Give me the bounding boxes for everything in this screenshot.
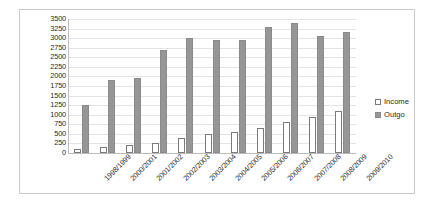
bar-income[interactable] bbox=[152, 143, 159, 153]
bar-group bbox=[152, 19, 167, 153]
chart-frame: 3500325030002750250022502000175015001250… bbox=[19, 9, 415, 194]
bar-group bbox=[100, 19, 115, 153]
bar-group bbox=[335, 19, 350, 153]
bar-income[interactable] bbox=[335, 111, 342, 153]
y-axis-tick-label: 2500 bbox=[50, 53, 66, 60]
y-axis-tick-label: 750 bbox=[54, 120, 66, 127]
legend-item-label: Income bbox=[384, 98, 409, 106]
y-axis: 3500325030002750250022502000175015001250… bbox=[39, 19, 68, 153]
y-axis-tick-label: 1750 bbox=[50, 82, 66, 89]
y-axis-tick-label: 1250 bbox=[50, 101, 66, 108]
y-axis-tick-label: 3000 bbox=[50, 34, 66, 41]
bar-outgo[interactable] bbox=[108, 80, 115, 153]
y-axis-tick-label: 2000 bbox=[50, 72, 66, 79]
x-axis-tick-label: 2008/2009 bbox=[339, 153, 369, 183]
bar-outgo[interactable] bbox=[134, 78, 141, 153]
bar-outgo[interactable] bbox=[239, 40, 246, 153]
bar-outgo[interactable] bbox=[82, 105, 89, 153]
x-axis-tick-label: 2005/2006 bbox=[260, 153, 290, 183]
x-axis-tick-label: 2001/2002 bbox=[155, 153, 185, 183]
bar-income[interactable] bbox=[178, 138, 185, 153]
x-axis: 1998/19992000/20012001/20022002/20032003… bbox=[68, 153, 356, 201]
bar-outgo[interactable] bbox=[265, 27, 272, 153]
bars-layer bbox=[68, 19, 356, 153]
y-axis-tick-label: 1500 bbox=[50, 92, 66, 99]
plot-area bbox=[68, 19, 356, 153]
bar-income[interactable] bbox=[309, 117, 316, 153]
y-axis-tick-label: 2250 bbox=[50, 63, 66, 70]
bar-outgo[interactable] bbox=[317, 36, 324, 153]
bar-outgo[interactable] bbox=[160, 50, 167, 153]
chart-legend: IncomeOutgo bbox=[375, 98, 433, 124]
bar-income[interactable] bbox=[126, 145, 133, 153]
y-axis-tick-label: 0 bbox=[62, 149, 66, 156]
y-axis-tick-label: 3250 bbox=[50, 25, 66, 32]
bar-income[interactable] bbox=[257, 128, 264, 153]
y-axis-tick-label: 500 bbox=[54, 130, 66, 137]
bar-group bbox=[231, 19, 246, 153]
bar-income[interactable] bbox=[231, 132, 238, 153]
bar-outgo[interactable] bbox=[213, 40, 220, 153]
x-axis-tick-label: 2004/2005 bbox=[234, 153, 264, 183]
outgo-swatch bbox=[375, 112, 381, 118]
income-swatch bbox=[375, 99, 381, 105]
x-axis-tick-label: 2007/2008 bbox=[313, 153, 343, 183]
bar-outgo[interactable] bbox=[343, 32, 350, 153]
bar-outgo[interactable] bbox=[291, 23, 298, 153]
legend-item-outgo[interactable]: Outgo bbox=[375, 111, 433, 119]
bar-income[interactable] bbox=[205, 134, 212, 153]
y-axis-tick-label: 1000 bbox=[50, 111, 66, 118]
x-axis-tick-label: 1998/1999 bbox=[103, 153, 133, 183]
legend-item-label: Outgo bbox=[384, 111, 405, 119]
bar-group bbox=[257, 19, 272, 153]
x-axis-tick-label: 2003/2004 bbox=[208, 153, 238, 183]
x-axis-tick-label: 2006/2007 bbox=[286, 153, 316, 183]
bar-group bbox=[126, 19, 141, 153]
bar-group bbox=[205, 19, 220, 153]
legend-item-income[interactable]: Income bbox=[375, 98, 433, 106]
y-axis-tick-label: 3500 bbox=[50, 15, 66, 22]
bar-group bbox=[178, 19, 193, 153]
bar-income[interactable] bbox=[283, 122, 290, 153]
y-axis-tick-label: 250 bbox=[54, 139, 66, 146]
bar-group bbox=[309, 19, 324, 153]
bar-outgo[interactable] bbox=[186, 38, 193, 153]
x-axis-tick-label: 2009/2010 bbox=[365, 153, 395, 183]
x-axis-tick-label: 2000/2001 bbox=[129, 153, 159, 183]
bar-group bbox=[283, 19, 298, 153]
x-axis-tick-label: 2002/2003 bbox=[182, 153, 212, 183]
bar-group bbox=[74, 19, 89, 153]
y-axis-tick-label: 2750 bbox=[50, 44, 66, 51]
